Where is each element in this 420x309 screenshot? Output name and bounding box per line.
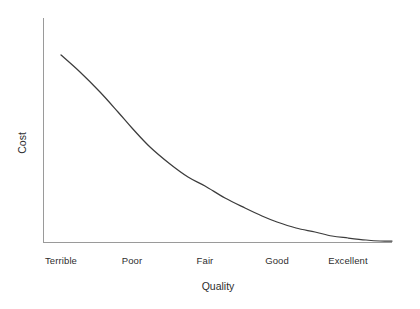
x-tick-label-excellent: Excellent	[328, 255, 367, 266]
chart-figure: Cost Terrible Poor Fair Good Excellent Q…	[0, 0, 420, 309]
x-axis-label: Quality	[202, 280, 235, 292]
x-tick-label-fair: Fair	[197, 255, 214, 266]
y-axis-label: Cost	[16, 123, 28, 163]
x-tick-label-terrible: Terrible	[45, 255, 77, 266]
x-tick-label-good: Good	[265, 255, 289, 266]
cost-quality-curve	[61, 55, 392, 241]
x-tick-label-poor: Poor	[122, 255, 142, 266]
